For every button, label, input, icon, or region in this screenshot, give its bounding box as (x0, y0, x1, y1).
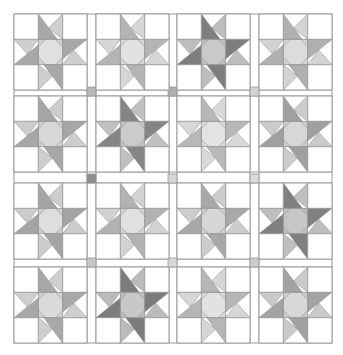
center-octagon (120, 292, 144, 317)
center-octagon (201, 121, 225, 146)
quilt-block (96, 267, 169, 343)
center-octagon (283, 208, 307, 233)
quilt-block (14, 183, 87, 259)
quilt-block (259, 96, 332, 172)
center-octagon (283, 39, 307, 64)
center-octagon (120, 121, 144, 146)
quilt-block (14, 267, 87, 343)
cornerstone (87, 258, 96, 267)
center-octagon (201, 39, 225, 64)
quilt-block (259, 267, 332, 343)
cornerstone (250, 87, 259, 96)
quilt-canvas (0, 0, 343, 355)
quilt-block (14, 96, 87, 172)
center-octagon (38, 121, 62, 146)
quilt-block (259, 183, 332, 259)
cornerstone (87, 174, 96, 183)
center-octagon (201, 208, 225, 233)
cornerstone (87, 87, 96, 96)
quilt-block (96, 183, 169, 259)
center-octagon (38, 208, 62, 233)
cornerstone (250, 258, 259, 267)
quilt-block (96, 14, 169, 90)
quilt-block (259, 14, 332, 90)
center-octagon (283, 121, 307, 146)
center-octagon (283, 292, 307, 317)
quilt-block (177, 267, 250, 343)
quilt-block (177, 183, 250, 259)
center-octagon (120, 208, 144, 233)
quilt-block (96, 96, 169, 172)
center-octagon (38, 39, 62, 64)
quilt-block (14, 14, 87, 90)
quilt-block (177, 14, 250, 90)
cornerstone (168, 174, 177, 183)
quilt-block (177, 96, 250, 172)
center-octagon (120, 39, 144, 64)
center-octagon (201, 292, 225, 317)
cornerstone (250, 174, 259, 183)
center-octagon (38, 292, 62, 317)
